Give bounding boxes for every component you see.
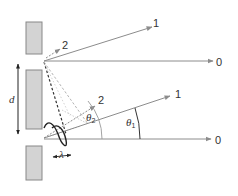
barrier-middle: [26, 70, 42, 129]
upper-order-0-label: 0: [216, 56, 222, 68]
barrier-top: [26, 22, 42, 54]
perpendicular-2: [62, 110, 88, 124]
theta1-arc: [135, 108, 140, 139]
slit-separation-label: d: [9, 93, 15, 105]
theta1-label: θ1: [126, 116, 135, 129]
upper-order-1-label: 1: [153, 17, 159, 29]
upper-order-2-label: 2: [62, 39, 68, 51]
lower-order-0-label: 0: [215, 134, 221, 146]
double-slit-diagram: d 0 1 2 0 1 2 θ1 θ2 λ: [0, 0, 238, 196]
lower-order-2-label: 2: [98, 94, 104, 106]
barrier-bottom: [26, 146, 42, 180]
theta2-label: θ2: [86, 111, 95, 124]
light-dashed-path: [44, 62, 88, 124]
lower-order-1-label: 1: [175, 88, 181, 100]
upper-ray-1: [44, 27, 152, 61]
light-dashed-path-2: [44, 62, 70, 116]
wavelength-label: λ: [58, 148, 64, 160]
